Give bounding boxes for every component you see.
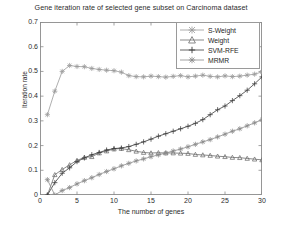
chart-legend: S-Weight Weight SVM-RFE (176, 22, 260, 69)
y-tick-7: 0.7 (16, 18, 38, 26)
x-tick-2: 10 (104, 196, 124, 205)
y-tick-5: 0.5 (16, 67, 38, 75)
series-weight (45, 146, 262, 195)
y-tick-4: 0.4 (16, 92, 38, 100)
x-tick-0: 0 (30, 196, 50, 205)
legend-item-mrmr[interactable]: MRMR (177, 55, 259, 65)
x-tick-5: 25 (215, 196, 235, 205)
x-axis-tick-labels: 051015202530 (40, 196, 262, 210)
legend-label-s-weight: S-Weight (208, 27, 236, 34)
chart-title: Gene iteration rate of selected gene sub… (0, 3, 282, 12)
legend-marker-svm-rfe (179, 45, 205, 55)
legend-marker-weight (179, 35, 205, 45)
y-tick-2: 0.2 (16, 142, 38, 150)
x-tick-6: 30 (252, 196, 272, 205)
legend-marker-mrmr (179, 55, 205, 65)
legend-item-s-weight[interactable]: S-Weight (177, 25, 259, 35)
y-tick-3: 0.3 (16, 117, 38, 125)
series-svm-rfe (45, 75, 262, 195)
x-tick-3: 15 (141, 196, 161, 205)
legend-item-weight[interactable]: Weight (177, 35, 259, 45)
series-mrmr (45, 117, 262, 195)
chart-figure: Gene iteration rate of selected gene sub… (0, 0, 282, 234)
series-s-weight (45, 63, 262, 117)
x-tick-1: 5 (67, 196, 87, 205)
legend-item-svm-rfe[interactable]: SVM-RFE (177, 45, 259, 55)
legend-label-mrmr: MRMR (208, 57, 229, 64)
y-tick-1: 0.1 (16, 166, 38, 174)
y-tick-6: 0.6 (16, 43, 38, 51)
legend-label-svm-rfe: SVM-RFE (208, 47, 239, 54)
y-axis-tick-labels: 00.10.20.30.40.50.60.7 (12, 22, 38, 195)
legend-label-weight: Weight (208, 37, 229, 44)
legend-marker-s-weight (179, 25, 205, 35)
x-tick-4: 20 (178, 196, 198, 205)
